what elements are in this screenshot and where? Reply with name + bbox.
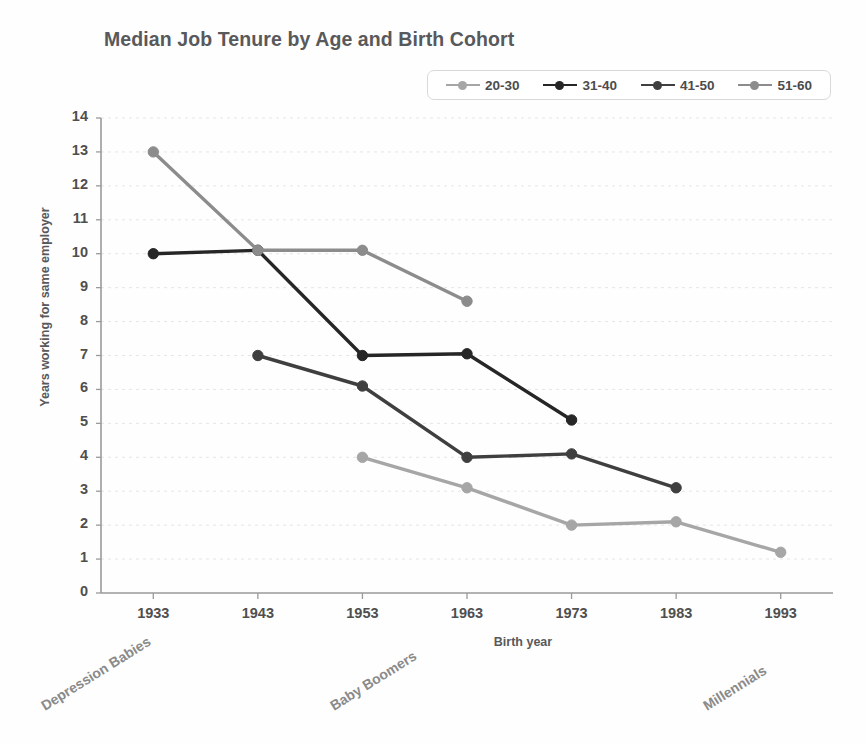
- data-point-20-30: [776, 547, 786, 557]
- x-axis-tick-label: 1983: [636, 605, 716, 621]
- y-axis-tick-label: 3: [58, 481, 88, 497]
- data-point-31-40: [462, 349, 472, 359]
- y-axis-tick-label: 1: [58, 549, 88, 565]
- y-axis-tick-label: 4: [58, 447, 88, 463]
- data-point-41-50: [566, 449, 576, 459]
- data-point-31-40: [148, 249, 158, 259]
- y-axis-tick-label: 0: [58, 583, 88, 599]
- y-axis-tick-label: 14: [58, 108, 88, 124]
- x-axis-tick-label: 1993: [741, 605, 821, 621]
- data-point-31-40: [566, 415, 576, 425]
- data-point-41-50: [462, 452, 472, 462]
- series-51-60: [148, 147, 472, 307]
- y-axis-tick-label: 9: [58, 278, 88, 294]
- data-point-20-30: [462, 483, 472, 493]
- series-line-51-60: [153, 152, 467, 301]
- data-point-51-60: [148, 147, 158, 157]
- data-point-51-60: [462, 296, 472, 306]
- x-axis-tick-label: 1963: [427, 605, 507, 621]
- y-axis-tick-label: 6: [58, 379, 88, 395]
- x-axis-tick-label: 1953: [322, 605, 402, 621]
- data-point-51-60: [357, 245, 367, 255]
- x-axis-tick-label: 1943: [218, 605, 298, 621]
- series-41-50: [253, 350, 682, 493]
- plot-area: [0, 0, 865, 744]
- y-axis-title: Years working for same employer: [38, 207, 52, 407]
- x-axis-tick-label: 1973: [532, 605, 612, 621]
- data-point-31-40: [357, 350, 367, 360]
- data-point-51-60: [253, 245, 263, 255]
- x-axis-title: Birth year: [463, 635, 583, 649]
- series-line-41-50: [258, 356, 676, 488]
- series-line-31-40: [153, 250, 571, 420]
- y-axis-tick-label: 7: [58, 346, 88, 362]
- chart-page: Median Job Tenure by Age and Birth Cohor…: [0, 0, 865, 744]
- y-axis-tick-label: 12: [58, 176, 88, 192]
- series-line-20-30: [362, 457, 780, 552]
- y-axis-tick-label: 5: [58, 413, 88, 429]
- data-point-41-50: [357, 381, 367, 391]
- y-axis-tick-label: 2: [58, 515, 88, 531]
- y-axis-tick-label: 11: [58, 210, 88, 226]
- data-point-20-30: [671, 517, 681, 527]
- x-axis-tick-label: 1933: [113, 605, 193, 621]
- data-point-41-50: [253, 350, 263, 360]
- data-point-41-50: [671, 483, 681, 493]
- y-axis-tick-label: 13: [58, 142, 88, 158]
- y-axis-tick-label: 8: [58, 312, 88, 328]
- line-chart-canvas: [0, 0, 865, 744]
- series-20-30: [357, 452, 786, 557]
- data-point-20-30: [357, 452, 367, 462]
- y-axis-tick-label: 10: [58, 244, 88, 260]
- series-31-40: [148, 245, 577, 425]
- data-point-20-30: [566, 520, 576, 530]
